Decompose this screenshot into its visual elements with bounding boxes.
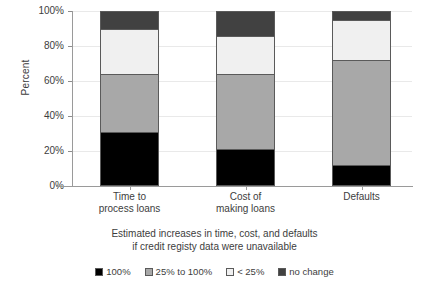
plot-area bbox=[73, 11, 412, 186]
legend-item-2[interactable]: 25% to 100% bbox=[145, 266, 213, 277]
bar-segment[interactable] bbox=[216, 74, 275, 149]
bar-segment[interactable] bbox=[332, 60, 391, 165]
legend-swatch-icon bbox=[95, 268, 103, 276]
x-axis-title-line1: Estimated increases in time, cost, and d… bbox=[111, 228, 317, 239]
legend-label: no change bbox=[289, 266, 333, 277]
bar-cost-of-making-loans[interactable] bbox=[216, 11, 275, 186]
y-tick-label-60: 60% bbox=[18, 75, 64, 86]
bar-segment[interactable] bbox=[100, 132, 159, 186]
category-label-line2: process loans bbox=[70, 203, 190, 215]
bar-segment[interactable] bbox=[216, 149, 275, 186]
category-label-3: Defaults bbox=[302, 191, 422, 203]
bar-time-to-process-loans[interactable] bbox=[100, 11, 159, 186]
bar-segment[interactable] bbox=[332, 20, 391, 60]
legend-item-3[interactable]: < 25% bbox=[226, 266, 264, 277]
legend-swatch-icon bbox=[278, 268, 286, 276]
chart-legend: 100%25% to 100%< 25%no change bbox=[0, 266, 429, 277]
bar-segment[interactable] bbox=[100, 74, 159, 132]
y-tick-label-40: 40% bbox=[18, 110, 64, 121]
bar-segment[interactable] bbox=[332, 11, 391, 20]
category-label-2: Cost ofmaking loans bbox=[186, 191, 306, 215]
legend-swatch-icon bbox=[145, 268, 153, 276]
x-axis-title: Estimated increases in time, cost, and d… bbox=[0, 228, 429, 253]
legend-label: < 25% bbox=[237, 266, 264, 277]
category-label-line2: making loans bbox=[186, 203, 306, 215]
legend-item-4[interactable]: no change bbox=[278, 266, 333, 277]
bar-segment[interactable] bbox=[100, 29, 159, 75]
bar-segment[interactable] bbox=[216, 11, 275, 36]
legend-label: 25% to 100% bbox=[156, 266, 213, 277]
legend-item-1[interactable]: 100% bbox=[95, 266, 130, 277]
category-label-line1: Cost of bbox=[230, 191, 262, 202]
legend-swatch-icon bbox=[226, 268, 234, 276]
x-axis-title-line2: if credit registy data were unavailable bbox=[0, 241, 429, 254]
x-tick-3 bbox=[362, 186, 363, 190]
y-tick-label-100: 100% bbox=[18, 5, 64, 16]
stacked-bar-chart: Percent 100%80%60%40%20%0% Time toproces… bbox=[0, 0, 429, 293]
y-tick-label-80: 80% bbox=[18, 40, 64, 51]
bar-segment[interactable] bbox=[332, 165, 391, 186]
x-tick-2 bbox=[246, 186, 247, 190]
y-tick-label-20: 20% bbox=[18, 145, 64, 156]
legend-label: 100% bbox=[106, 266, 130, 277]
x-tick-1 bbox=[130, 186, 131, 190]
bar-segment[interactable] bbox=[216, 36, 275, 75]
bar-defaults[interactable] bbox=[332, 11, 391, 186]
category-label-line1: Defaults bbox=[343, 191, 380, 202]
category-label-1: Time toprocess loans bbox=[70, 191, 190, 215]
bar-segment[interactable] bbox=[100, 11, 159, 29]
category-label-line1: Time to bbox=[113, 191, 146, 202]
